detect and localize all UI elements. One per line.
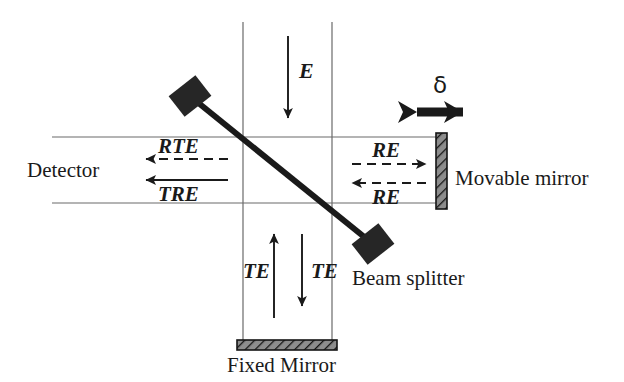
label-te-left: TE [243,261,270,282]
beam-splitter-plate [196,101,368,240]
label-rte: RTE [158,136,199,157]
label-te-right: TE [311,261,338,282]
movable-mirror[interactable] [436,133,447,209]
beam-splitter-assembly [169,75,395,264]
label-movable-mirror: Movable mirror [455,168,589,189]
fixed-mirror [237,340,337,350]
interferometer-figure: E δ Detector RTE TRE RE RE Movable mirro… [0,0,624,382]
label-displacement-symbol: δ [433,74,447,97]
label-beam-splitter: Beam splitter [352,268,465,289]
label-re-outgoing: RE [372,140,400,161]
beam-channel-rails [52,22,440,340]
label-tre: TRE [158,184,199,205]
label-detector: Detector [27,160,99,181]
label-source-beam: E [299,60,314,82]
label-re-returning: RE [372,187,400,208]
label-fixed-mirror: Fixed Mirror [227,355,336,376]
